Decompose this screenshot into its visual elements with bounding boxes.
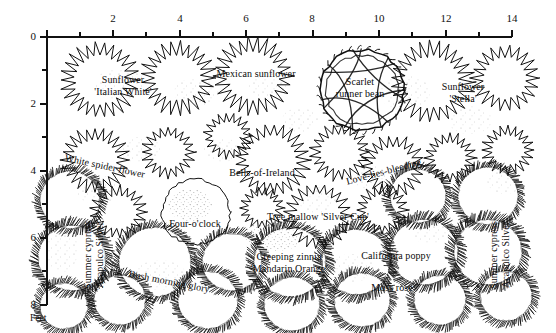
plant-label-line: Moss rose [371, 282, 413, 294]
plant-label-line: runner bean [336, 88, 385, 100]
plant-label-line: California poppy [361, 250, 431, 262]
x-axis-tick-14: 14 [507, 13, 518, 24]
x-axis-tick-6: 6 [243, 13, 249, 24]
plant-label-line: Tree mallow 'Silver Cup' [267, 211, 369, 223]
plant-label-summer-cypress-left: Summer cypress 'Acapulco Silver' [82, 220, 105, 290]
x-axis-tick-2: 2 [110, 13, 116, 24]
plant-label-moss-rose: Moss rose [371, 282, 413, 294]
y-axis-tick-6: 6 [31, 232, 37, 243]
plant-label-bells-of-ireland: Bells-of-Ireland [229, 167, 294, 179]
garden-plan-figure: 8 2 4 6 10 12 14 0 2 4 6 8 Feet Sunflowe… [0, 0, 556, 333]
plant-label-line: 'Stella' [442, 93, 485, 105]
plant-label-four-oclock: Four-o'clock [169, 218, 221, 230]
plant-label-line: Four-o'clock [169, 218, 221, 230]
x-axis-tick-8: 8 [309, 13, 315, 24]
plant-label-tree-mallow-silver-cup: Tree mallow 'Silver Cup' [267, 211, 369, 223]
y-axis-tick-2: 2 [31, 98, 37, 109]
plant-label-line: Sunflower [94, 74, 151, 86]
plant-label-summer-cypress-right: Summer cypress 'Acapulco Silver' [488, 220, 511, 290]
plant-label-line: Bells-of-Ireland [229, 167, 294, 179]
plant-label-line: Sunflower [442, 81, 485, 93]
plant-label-sunflower-stella: Sunflower 'Stella' [442, 81, 485, 104]
plant-label-line: 'Acapulco Silver' [500, 220, 512, 290]
x-axis-tick-4: 4 [177, 13, 183, 24]
axis-unit-label-feet: Feet [30, 314, 46, 324]
x-axis-tick-10: 10 [374, 13, 385, 24]
plant-label-line: Summer cypress [82, 220, 94, 290]
plant-label-line: Scarlet [336, 76, 385, 88]
plant-label-line: 'Mandarin Orange' [251, 263, 327, 275]
y-axis-tick-4: 4 [31, 165, 37, 176]
plant-label-line: 'Acapulco Silver' [94, 220, 106, 290]
y-axis-tick-8: 8 [31, 299, 37, 310]
plant-label-sunflower-italian-white: Sunflower 'Italian White' [94, 74, 151, 97]
plant-label-california-poppy: California poppy [361, 250, 431, 262]
plant-label-line: Mexican sunflower [216, 68, 295, 80]
plant-label-line: Summer cypress [488, 220, 500, 290]
origin-tick-0: 0 [31, 31, 37, 42]
plant-label-scarlet-runner-bean: Scarlet runner bean [336, 76, 385, 99]
plant-label-mexican-sunflower: Mexican sunflower [216, 68, 295, 80]
plant-label-line: Creeping zinnia [251, 251, 327, 263]
plant-label-line: 'Italian White' [94, 86, 151, 98]
plant-label-creeping-zinnia: Creeping zinnia 'Mandarin Orange' [251, 251, 327, 274]
x-axis-tick-12: 12 [441, 13, 452, 24]
